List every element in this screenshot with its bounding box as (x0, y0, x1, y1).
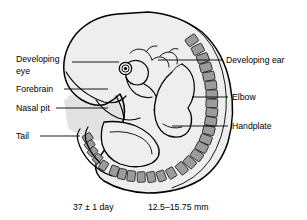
label-elbow: Elbow (232, 92, 256, 102)
label-developing-eye-line1: Developing (16, 54, 60, 64)
label-developing-ear: Developing ear (226, 55, 285, 65)
label-handplate: Handplate (232, 121, 272, 131)
eye-pupil-icon (124, 67, 127, 70)
right-labels: Developing ear Elbow Handplate (226, 55, 285, 131)
caption-row: 37 ± 1 day 12.5–15.75 mm (73, 202, 208, 212)
caption-length: 12.5–15.75 mm (148, 202, 208, 212)
embryo-diagram-figure: Developing eye Forebrain Nasal pit Tail … (0, 0, 307, 220)
eye-structure (119, 62, 131, 74)
label-developing-eye-line2: eye (16, 66, 30, 76)
left-labels: Developing eye Forebrain Nasal pit Tail (16, 54, 60, 141)
caption-age: 37 ± 1 day (73, 202, 114, 212)
embryo-diagram-svg: Developing eye Forebrain Nasal pit Tail … (0, 0, 307, 220)
label-tail: Tail (16, 131, 29, 141)
label-nasal-pit: Nasal pit (16, 103, 50, 113)
label-forebrain: Forebrain (16, 84, 53, 94)
